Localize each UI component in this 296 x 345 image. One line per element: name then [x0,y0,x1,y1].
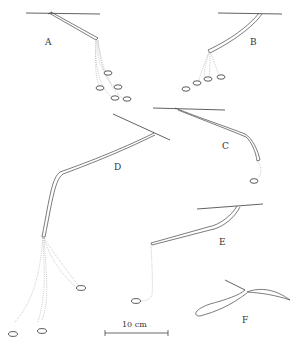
burrow-tube-c [175,108,260,161]
panel-b: B [182,13,282,91]
panel-label-a: A [44,37,52,47]
chamber-d1 [77,286,86,291]
panel-label-f: F [242,315,248,325]
burrow-tube-a [49,12,98,40]
burrow-tube-d [42,133,155,237]
panel-label-b: B [250,37,257,47]
panel-label-e: E [219,237,226,247]
chamber-a1 [104,71,112,75]
scale-bar-label: 10 cm [122,320,147,329]
ground-surface-a [26,13,100,14]
chamber-b3 [193,81,201,85]
burrow-tube-b [208,13,262,53]
chamber-b2 [204,77,212,81]
panel-label-d: D [114,162,121,172]
panel-label-c: C [222,141,229,151]
dotted-branch-c [256,162,261,180]
panel-f: F [196,280,290,325]
chamber-a4 [111,96,119,100]
ground-surface-c [153,108,225,110]
chamber-b1 [217,75,225,79]
chamber-d2 [38,329,47,334]
chamber-a3 [114,85,122,89]
ground-surface-d [113,114,170,140]
scale-bar: 10 cm [105,320,168,336]
chamber-e1 [132,299,141,304]
panel-e: E [132,204,264,303]
ground-surface-b [218,13,282,14]
chamber-c1 [250,179,258,184]
dotted-branches-d [14,238,79,323]
chamber-d3 [9,332,18,337]
panel-d: D [9,114,171,336]
ground-surface-e [197,204,263,209]
dotted-branch-e [140,245,152,301]
chamber-b4 [182,87,190,91]
chamber-a2 [96,86,104,90]
ground-surface-f [225,280,245,290]
burrow-diagram: A B C [0,0,296,345]
burrow-tube-f [196,289,290,316]
panel-c: C [153,108,261,183]
panel-a: A [26,12,131,101]
burrow-tube-e [151,206,240,245]
chamber-a5 [123,97,131,101]
